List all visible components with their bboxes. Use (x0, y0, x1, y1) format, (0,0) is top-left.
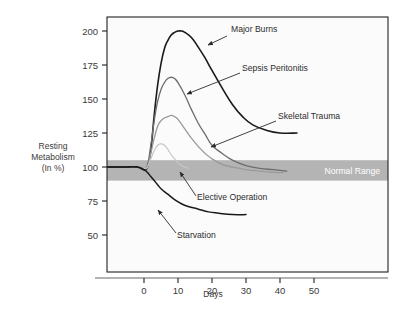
normal-range-band-label: Normal Range (325, 166, 381, 176)
y-tick-label: 200 (82, 26, 98, 37)
y-tick-label: 150 (82, 94, 98, 105)
annotation-label-sepsis-peritonitis: Sepsis Peritonitis (242, 63, 308, 73)
chart-figure: 5075100125150175200 01020304050 Major Bu… (0, 0, 401, 322)
x-axis-title: Days (203, 289, 222, 299)
plot-background (107, 17, 388, 272)
y-tick-label: 125 (82, 128, 98, 139)
x-tick-label: 40 (275, 285, 286, 296)
annotation-label-skeletal-trauma: Skeletal Trauma (278, 111, 340, 121)
y-axis-title-line-1: Resting (39, 141, 68, 151)
y-axis-title-line-2: Metabolism (31, 152, 74, 162)
y-tick-label: 50 (87, 230, 98, 241)
y-tick-label: 100 (82, 162, 98, 173)
x-tick-label: 50 (309, 285, 320, 296)
y-tick-label: 75 (87, 196, 98, 207)
y-tick-label: 175 (82, 60, 98, 71)
resting-metabolism-line-chart: 5075100125150175200 01020304050 Major Bu… (0, 0, 401, 322)
x-tick-label: 30 (241, 285, 252, 296)
annotation-label-elective-operation: Elective Operation (197, 192, 267, 202)
annotation-label-starvation: Starvation (177, 230, 216, 240)
annotation-label-major-burns: Major Burns (231, 24, 277, 34)
x-tick-label: 10 (173, 285, 184, 296)
y-axis-title-line-3: (In %) (42, 163, 65, 173)
x-tick-label: 0 (141, 285, 146, 296)
